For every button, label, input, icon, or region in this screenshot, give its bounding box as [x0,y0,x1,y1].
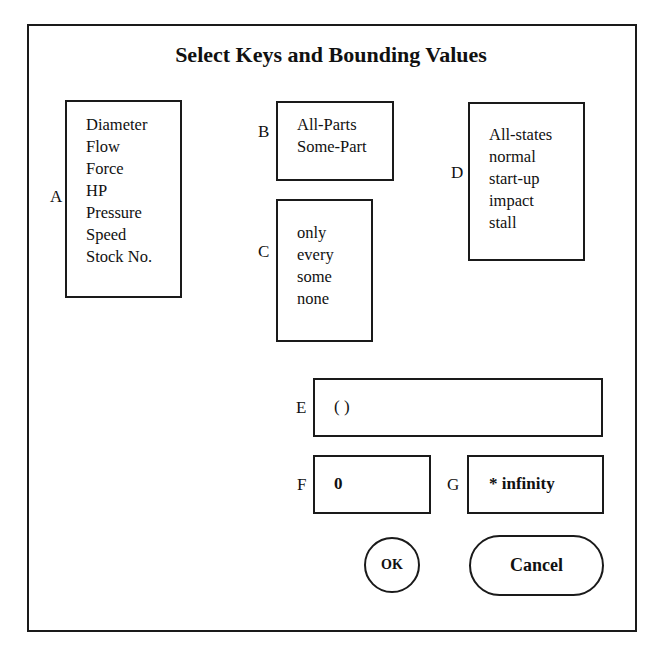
lower-bound-value: 0 [334,474,343,494]
state-list-items: All-states normal start-up impact stall [489,124,552,234]
list-item[interactable]: Force [86,158,152,180]
list-item[interactable]: stall [489,212,552,234]
list-item[interactable]: Flow [86,136,152,158]
list-item[interactable]: Pressure [86,202,152,224]
list-item[interactable]: some [297,266,334,288]
list-item[interactable]: impact [489,190,552,212]
label-e: E [296,398,306,418]
list-item[interactable]: every [297,244,334,266]
expression-value: ( ) [334,397,350,417]
list-item[interactable]: none [297,288,334,310]
dialog-title: Select Keys and Bounding Values [0,42,662,68]
quantifier-list-items: only every some none [297,222,334,310]
list-item[interactable]: Speed [86,224,152,246]
list-item[interactable]: only [297,222,334,244]
list-item[interactable]: start-up [489,168,552,190]
label-d: D [451,163,463,183]
ok-button[interactable]: OK [364,537,420,593]
state-list-d[interactable]: All-states normal start-up impact stall [468,102,585,261]
list-item[interactable]: Stock No. [86,246,152,268]
upper-bound-field-g[interactable]: * infinity [467,455,604,514]
part-list-b[interactable]: All-Parts Some-Part [276,101,394,181]
upper-bound-value: * infinity [489,474,555,494]
cancel-button[interactable]: Cancel [469,535,604,596]
part-list-items: All-Parts Some-Part [297,114,367,158]
label-a: A [50,187,62,207]
quantifier-list-c[interactable]: only every some none [276,199,373,342]
label-f: F [297,475,306,495]
lower-bound-field-f[interactable]: 0 [313,455,431,514]
list-item[interactable]: normal [489,146,552,168]
key-list-items: Diameter Flow Force HP Pressure Speed St… [86,114,152,268]
label-g: G [447,475,459,495]
label-c: C [258,242,269,262]
list-item[interactable]: Some-Part [297,136,367,158]
label-b: B [258,122,269,142]
list-item[interactable]: All-Parts [297,114,367,136]
list-item[interactable]: All-states [489,124,552,146]
key-list-a[interactable]: Diameter Flow Force HP Pressure Speed St… [65,100,182,298]
list-item[interactable]: Diameter [86,114,152,136]
list-item[interactable]: HP [86,180,152,202]
expression-field-e[interactable]: ( ) [313,378,603,437]
